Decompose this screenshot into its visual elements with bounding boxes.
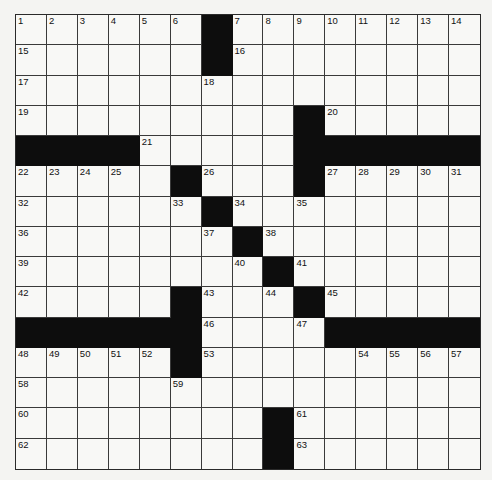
grid-cell[interactable] [140, 166, 171, 196]
grid-cell[interactable]: 15 [16, 45, 47, 75]
grid-cell[interactable]: 18 [202, 76, 233, 106]
grid-cell[interactable]: 2 [47, 15, 78, 45]
grid-cell[interactable] [202, 439, 233, 469]
grid-cell[interactable] [47, 76, 78, 106]
grid-cell[interactable] [202, 257, 233, 287]
grid-cell[interactable] [233, 136, 264, 166]
grid-cell[interactable]: 49 [47, 348, 78, 378]
grid-cell[interactable] [263, 348, 294, 378]
grid-cell[interactable] [263, 136, 294, 166]
grid-cell[interactable]: 43 [202, 287, 233, 317]
grid-cell[interactable]: 50 [78, 348, 109, 378]
grid-cell[interactable]: 30 [418, 166, 449, 196]
grid-cell[interactable] [356, 257, 387, 287]
grid-cell[interactable] [202, 106, 233, 136]
grid-cell[interactable] [356, 287, 387, 317]
grid-cell[interactable]: 60 [16, 408, 47, 438]
grid-cell[interactable]: 8 [263, 15, 294, 45]
grid-cell[interactable] [109, 45, 140, 75]
grid-cell[interactable]: 37 [202, 227, 233, 257]
grid-cell[interactable] [140, 106, 171, 136]
grid-cell[interactable] [202, 378, 233, 408]
grid-cell[interactable]: 39 [16, 257, 47, 287]
grid-cell[interactable] [140, 287, 171, 317]
grid-cell[interactable] [418, 257, 449, 287]
grid-cell[interactable] [78, 408, 109, 438]
grid-cell[interactable] [109, 378, 140, 408]
grid-cell[interactable]: 31 [449, 166, 480, 196]
grid-cell[interactable] [449, 408, 480, 438]
grid-cell[interactable]: 24 [78, 166, 109, 196]
grid-cell[interactable] [263, 378, 294, 408]
grid-cell[interactable] [263, 76, 294, 106]
grid-cell[interactable]: 13 [418, 15, 449, 45]
grid-cell[interactable] [294, 76, 325, 106]
grid-cell[interactable]: 55 [387, 348, 418, 378]
grid-cell[interactable] [140, 197, 171, 227]
grid-cell[interactable]: 7 [233, 15, 264, 45]
grid-cell[interactable] [233, 287, 264, 317]
grid-cell[interactable] [78, 378, 109, 408]
grid-cell[interactable] [47, 439, 78, 469]
grid-cell[interactable] [109, 408, 140, 438]
grid-cell[interactable] [171, 257, 202, 287]
grid-cell[interactable]: 23 [47, 166, 78, 196]
grid-cell[interactable]: 51 [109, 348, 140, 378]
grid-cell[interactable]: 14 [449, 15, 480, 45]
grid-cell[interactable] [109, 106, 140, 136]
grid-cell[interactable]: 4 [109, 15, 140, 45]
grid-cell[interactable] [449, 287, 480, 317]
grid-cell[interactable]: 25 [109, 166, 140, 196]
grid-cell[interactable]: 41 [294, 257, 325, 287]
grid-cell[interactable]: 12 [387, 15, 418, 45]
grid-cell[interactable] [387, 227, 418, 257]
grid-cell[interactable] [109, 227, 140, 257]
grid-cell[interactable] [325, 439, 356, 469]
grid-cell[interactable]: 11 [356, 15, 387, 45]
grid-cell[interactable] [325, 45, 356, 75]
grid-cell[interactable] [140, 227, 171, 257]
grid-cell[interactable] [109, 197, 140, 227]
grid-cell[interactable] [294, 227, 325, 257]
grid-cell[interactable] [47, 257, 78, 287]
grid-cell[interactable]: 48 [16, 348, 47, 378]
grid-cell[interactable] [294, 45, 325, 75]
grid-cell[interactable] [171, 227, 202, 257]
grid-cell[interactable] [449, 378, 480, 408]
grid-cell[interactable]: 63 [294, 439, 325, 469]
grid-cell[interactable] [171, 45, 202, 75]
grid-cell[interactable] [418, 378, 449, 408]
grid-cell[interactable]: 58 [16, 378, 47, 408]
grid-cell[interactable] [202, 136, 233, 166]
grid-cell[interactable] [356, 76, 387, 106]
grid-cell[interactable] [263, 197, 294, 227]
grid-cell[interactable]: 53 [202, 348, 233, 378]
grid-cell[interactable] [109, 257, 140, 287]
grid-cell[interactable] [78, 76, 109, 106]
grid-cell[interactable] [78, 227, 109, 257]
grid-cell[interactable] [387, 257, 418, 287]
grid-cell[interactable] [449, 227, 480, 257]
grid-cell[interactable] [325, 197, 356, 227]
grid-cell[interactable] [109, 439, 140, 469]
grid-cell[interactable]: 22 [16, 166, 47, 196]
grid-cell[interactable] [233, 106, 264, 136]
grid-cell[interactable] [47, 227, 78, 257]
grid-cell[interactable] [418, 106, 449, 136]
grid-cell[interactable]: 26 [202, 166, 233, 196]
grid-cell[interactable]: 52 [140, 348, 171, 378]
grid-cell[interactable]: 17 [16, 76, 47, 106]
grid-cell[interactable] [78, 45, 109, 75]
grid-cell[interactable] [171, 76, 202, 106]
grid-cell[interactable] [356, 106, 387, 136]
grid-cell[interactable] [294, 348, 325, 378]
grid-cell[interactable]: 47 [294, 318, 325, 348]
grid-cell[interactable] [171, 408, 202, 438]
grid-cell[interactable] [171, 106, 202, 136]
grid-cell[interactable]: 59 [171, 378, 202, 408]
grid-cell[interactable] [263, 106, 294, 136]
grid-cell[interactable] [449, 257, 480, 287]
grid-cell[interactable]: 21 [140, 136, 171, 166]
grid-cell[interactable]: 33 [171, 197, 202, 227]
grid-cell[interactable] [263, 318, 294, 348]
